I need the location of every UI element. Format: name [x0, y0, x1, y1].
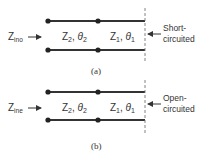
node-dot [95, 47, 100, 52]
input-impedance-label: Zine [8, 102, 23, 114]
node-dot [45, 47, 50, 52]
termination-label-line1: Short- [163, 23, 186, 33]
termination-label-line2: circuited [163, 34, 195, 44]
section2-label: Z2, θ2 [62, 31, 87, 43]
section2-label: Z2, θ2 [62, 102, 87, 114]
node-dot [95, 18, 100, 23]
node-dot [45, 18, 50, 23]
input-impedance-label: Zino [8, 31, 23, 43]
node-dot [95, 89, 100, 94]
transmission-line-diagram: Zino Z2, θ2 Z1, θ1 Short- circuited (a) … [0, 0, 208, 158]
figure-caption: (a) [91, 66, 101, 76]
section1-label: Z1, θ1 [110, 102, 135, 114]
node-dot [45, 89, 50, 94]
termination-label-line2: circuited [163, 104, 195, 114]
figure-b: Zine Z2, θ2 Z1, θ1 Open- circuited (b) [8, 80, 195, 151]
node-dot [95, 117, 100, 122]
section1-label: Z1, θ1 [110, 31, 135, 43]
figure-a: Zino Z2, θ2 Z1, θ1 Short- circuited (a) [8, 8, 195, 76]
node-dot [45, 117, 50, 122]
figure-caption: (b) [91, 141, 102, 151]
termination-label-line1: Open- [163, 93, 187, 103]
